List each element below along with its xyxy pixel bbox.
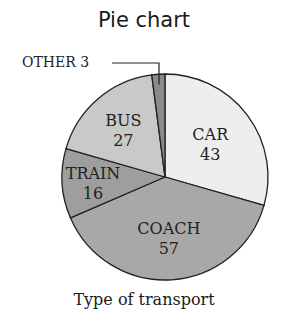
slice-label-train: TRAIN (66, 164, 121, 183)
pie-chart: CAR43COACH57TRAIN16BUS27 OTHER 3 (0, 0, 288, 320)
slice-value-coach: 57 (159, 239, 179, 258)
slice-label-bus: BUS (105, 111, 141, 130)
slice-label-coach: COACH (137, 219, 200, 238)
slice-label-car: CAR (192, 125, 229, 144)
slice-value-train: 16 (83, 184, 103, 203)
x-axis-label: Type of transport (0, 290, 288, 309)
slice-value-bus: 27 (113, 131, 133, 150)
other-label: OTHER 3 (22, 54, 89, 70)
slice-value-car: 43 (200, 145, 220, 164)
